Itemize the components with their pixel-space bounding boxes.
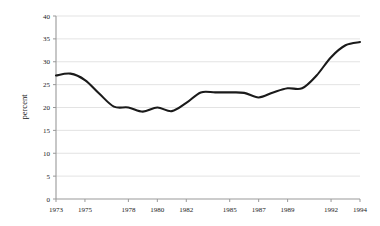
x-tick-label-1989: 1989 (281, 206, 296, 214)
x-tick-label-1987: 1987 (252, 206, 267, 214)
x-tick-label-1980: 1980 (150, 206, 165, 214)
x-tick-label-1992: 1992 (324, 206, 339, 214)
chart-container: 1973197519781980198219851987198919921994… (0, 0, 380, 226)
x-tick-label-1985: 1985 (223, 206, 238, 214)
x-tick-label-1994: 1994 (353, 206, 368, 214)
y-tick-label-10: 10 (43, 150, 51, 158)
x-axis-tick-labels: 1973197519781980198219851987198919921994 (49, 206, 368, 214)
y-tick-label-5: 5 (47, 173, 51, 181)
x-tick-label-1982: 1982 (179, 206, 194, 214)
y-tick-label-40: 40 (43, 13, 51, 21)
y-tick-label-25: 25 (43, 81, 51, 89)
y-tick-label-20: 20 (43, 104, 51, 112)
x-tick-label-1975: 1975 (78, 206, 93, 214)
data-line-percent (56, 42, 360, 112)
x-tick-label-1978: 1978 (121, 206, 136, 214)
line-chart: 1973197519781980198219851987198919921994… (0, 0, 380, 226)
x-tick-label-1973: 1973 (49, 206, 64, 214)
y-tick-label-0: 0 (47, 196, 51, 204)
y-tick-label-35: 35 (43, 35, 51, 43)
y-axis-title: percent (19, 94, 29, 120)
y-axis-tick-labels: 0510152025303540 (43, 13, 51, 204)
y-tick-label-30: 30 (43, 58, 51, 66)
y-tick-label-15: 15 (43, 127, 51, 135)
